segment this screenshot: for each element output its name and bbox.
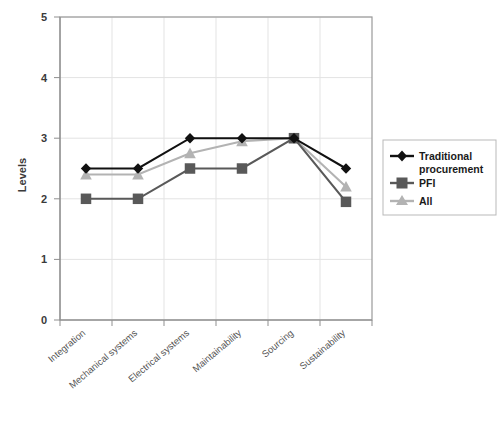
square-marker — [185, 163, 196, 174]
y-tick-label: 0 — [41, 314, 47, 326]
y-tick-label: 2 — [41, 193, 47, 205]
legend-label: PFI — [419, 177, 435, 189]
square-marker — [237, 163, 248, 174]
legend-label: Traditional — [419, 150, 472, 162]
legend: Traditional procurement PFI All — [383, 140, 496, 215]
x-tick-labels: Integration Mechanical systems Electrica… — [46, 327, 348, 391]
y-tick-marks — [54, 17, 60, 320]
y-tick-label: 4 — [41, 72, 48, 84]
x-tick-label: Sustainability — [297, 327, 347, 372]
diamond-marker — [185, 133, 195, 143]
x-tick-marks — [60, 320, 372, 326]
x-tick-label: Maintainability — [190, 327, 243, 374]
square-marker — [81, 194, 92, 205]
y-axis-title: Levels — [16, 158, 28, 192]
legend-label: All — [419, 195, 433, 207]
y-tick-label: 5 — [41, 11, 47, 23]
square-marker — [133, 194, 144, 205]
square-icon — [397, 178, 408, 189]
diamond-marker — [81, 163, 91, 173]
square-marker — [341, 197, 352, 208]
y-tick-labels: 5 4 3 2 1 0 — [41, 11, 48, 326]
x-tick-label: Sourcing — [259, 327, 295, 360]
legend-label-cont: procurement — [419, 163, 484, 175]
chart-container: 5 4 3 2 1 0 Levels Integration Mechanica… — [0, 0, 498, 421]
x-tick-label: Integration — [46, 327, 87, 364]
y-tick-label: 1 — [41, 253, 47, 265]
diamond-marker — [341, 163, 351, 173]
line-chart: 5 4 3 2 1 0 Levels Integration Mechanica… — [0, 0, 498, 421]
y-tick-label: 3 — [41, 132, 47, 144]
